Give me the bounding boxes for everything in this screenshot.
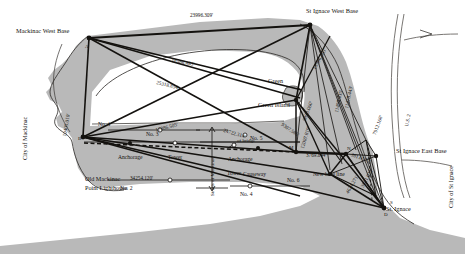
distance-top-long: 23996.309' [190, 13, 213, 18]
road-branch-ne [404, 34, 458, 40]
label-station-no4: No. 4 [240, 192, 252, 198]
distance-bottom-left: 34254.120' [130, 176, 153, 181]
label-causeway: Causeway [243, 172, 266, 178]
label-point-b: B [78, 136, 81, 141]
label-straits-of-mackinac: Straits of Mackinac [210, 157, 215, 196]
label-st-ignace: St. Ignace [386, 206, 411, 212]
label-point-m: M [289, 145, 293, 150]
label-anchorage-west: Anchorage [118, 155, 143, 161]
label-center-of-bridge: of bridge [237, 138, 255, 143]
label-point-a: A [85, 44, 89, 49]
road-branch-east [402, 160, 452, 166]
label-old-mackinac-point-lighthouse-line1: Old Mackinac [85, 176, 120, 182]
label-anchorage-east: Anchorage [228, 157, 253, 163]
label-station-no6: No. 6 [287, 178, 299, 184]
label-point-d: D [384, 212, 388, 217]
label-st-ignace-west-base: St Ignace West Base [306, 8, 358, 14]
distance-new-base: 3769.844' [306, 153, 326, 158]
label-point-n: N [347, 146, 351, 151]
label-new-base-line: New base line [313, 172, 345, 178]
survey-map-figure: Mackinac West Base St Ignace West Base S… [0, 0, 465, 254]
label-city-of-st-ignace: City of St Ignace [448, 166, 454, 208]
label-point-s: S [390, 200, 393, 205]
label-green-island: Green Island [258, 102, 290, 108]
label-st-ignace-east-base-line1: St Ignace East Base [396, 148, 447, 154]
label-station-no1: No. 1 [98, 122, 110, 128]
label-green: Green [268, 78, 283, 84]
label-mackinac-west-base: Mackinac West Base [16, 28, 69, 34]
label-city-of-mackinac: City of Mackinac [22, 117, 28, 160]
label-tower-west: Tower [168, 155, 182, 161]
label-station-no2: No. 2 [120, 186, 132, 192]
label-tower-east: Tower [227, 171, 241, 177]
map-vector-layer [0, 0, 465, 254]
